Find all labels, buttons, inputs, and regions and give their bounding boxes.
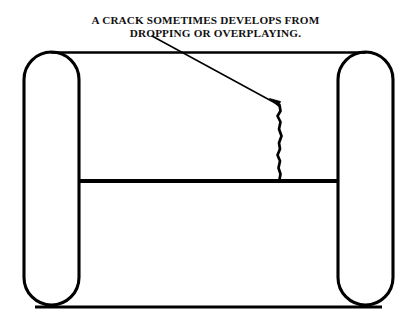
figure-root: A CRACK SOMETIMES DEVELOPS FROM DROPPING… [0, 0, 417, 318]
diagram-canvas [0, 0, 417, 318]
canvas-background [0, 0, 417, 318]
